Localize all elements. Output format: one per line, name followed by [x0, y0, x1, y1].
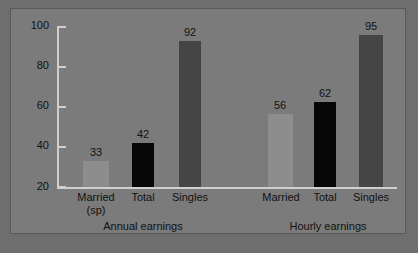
y-tick-20 [59, 186, 66, 188]
y-tick-80 [59, 66, 66, 68]
group-label-hourly: Hourly earnings [268, 220, 388, 232]
chart-frame: Female/male ratio (percent) 100 80 60 40… [10, 8, 406, 234]
y-tick-40 [59, 146, 66, 148]
bar-annual-total[interactable] [132, 143, 154, 187]
y-tick-label-20: 20 [15, 181, 49, 192]
bar-value-annual-singles: 92 [171, 27, 209, 38]
cat-label-annual-singles: Singles [165, 191, 215, 203]
y-tick-60 [59, 106, 66, 108]
cat-label-annual-married: Married [66, 191, 126, 203]
y-tick-label-100: 100 [15, 20, 49, 31]
bar-hourly-married[interactable] [268, 114, 293, 187]
bar-hourly-singles[interactable] [359, 35, 383, 187]
y-tick-label-80: 80 [15, 60, 49, 71]
bar-annual-married[interactable] [83, 161, 109, 187]
cat-label-hourly-singles: Singles [346, 191, 396, 203]
bar-value-hourly-total: 62 [306, 88, 344, 99]
bar-value-hourly-singles: 95 [352, 21, 390, 32]
bar-value-annual-married: 33 [77, 147, 115, 158]
bar-value-hourly-married: 56 [261, 100, 299, 111]
x-axis-line [57, 187, 397, 189]
cat-label-hourly-total: Total [302, 191, 348, 203]
bar-hourly-total[interactable] [314, 102, 336, 187]
bar-annual-singles[interactable] [179, 41, 201, 187]
bar-value-annual-total: 42 [124, 129, 162, 140]
cat-sublabel-annual-married: (sp) [66, 204, 126, 216]
group-label-annual: Annual earnings [83, 220, 203, 232]
y-tick-label-60: 60 [15, 100, 49, 111]
y-tick-100 [59, 26, 66, 28]
plot-area: 33 42 92 56 62 95 Married (sp) Total Sin… [57, 25, 397, 205]
y-tick-label-40: 40 [15, 140, 49, 151]
cat-label-annual-total: Total [120, 191, 166, 203]
